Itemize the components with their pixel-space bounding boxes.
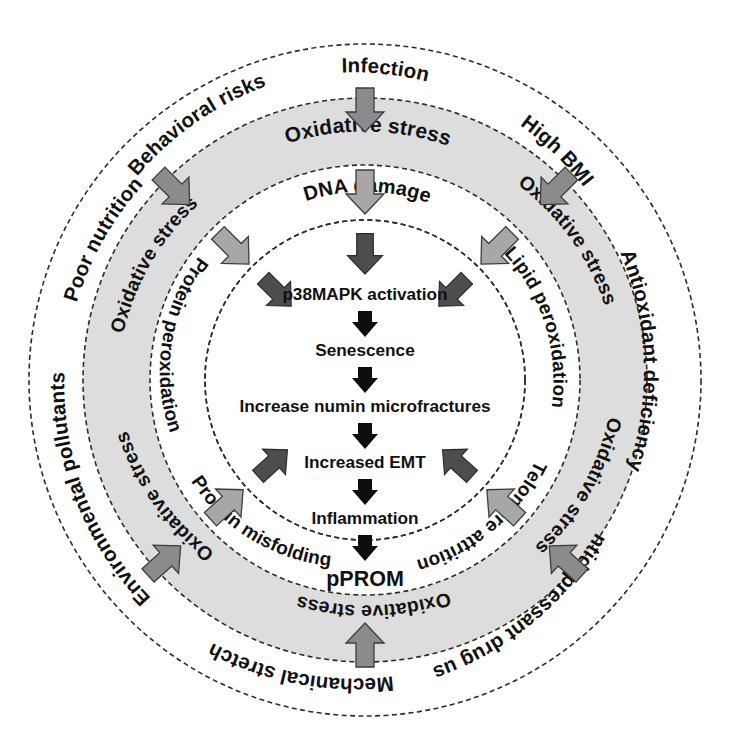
core-step-increased-emt: Increased EMT bbox=[304, 452, 426, 472]
figure-canvas: Behavioral risks Infection High BMI Anti… bbox=[0, 0, 731, 740]
outer-label-infection: Infection bbox=[341, 53, 431, 85]
concentric-pathway-diagram: Behavioral risks Infection High BMI Anti… bbox=[0, 0, 731, 740]
core-step-inflammation: Inflammation bbox=[312, 508, 419, 528]
core-arrow-5 bbox=[352, 535, 378, 561]
core-step-pprom: pPROM bbox=[326, 567, 404, 591]
core-step-p38mapk-activation: p38MAPK activation bbox=[282, 284, 447, 304]
core-step-increase-numin-microfractures: Increase numin microfractures bbox=[239, 396, 490, 416]
core-step-senescence: Senescence bbox=[315, 340, 414, 360]
